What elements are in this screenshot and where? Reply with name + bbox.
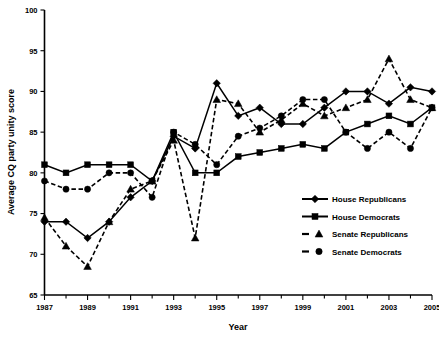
data-point-marker (429, 105, 435, 111)
x-tick-label: 2001 (338, 303, 355, 312)
chart-figure: 65707580859095100 1987198919911993199519… (0, 0, 439, 338)
data-point-marker (106, 170, 112, 176)
x-tick-label: 1991 (122, 303, 139, 312)
legend-label: House Democrats (332, 213, 401, 222)
data-point-marker (128, 162, 134, 168)
data-point-marker (312, 214, 318, 220)
x-tick-label: 1999 (294, 303, 311, 312)
data-point-marker (257, 150, 263, 156)
x-tick-label: 1987 (36, 303, 53, 312)
x-tick-label: 1995 (208, 303, 225, 312)
data-point-marker (128, 170, 134, 176)
data-point-marker (278, 113, 284, 119)
data-point-marker (84, 186, 90, 192)
data-point-marker (321, 96, 327, 102)
data-point-marker (106, 162, 112, 168)
data-point-marker (63, 170, 69, 176)
y-tick-label: 85 (29, 128, 37, 137)
data-point-marker (386, 129, 392, 135)
legend-label: Senate Republicans (332, 230, 409, 239)
data-point-marker (257, 125, 263, 131)
data-point-marker (214, 162, 220, 168)
data-point-marker (321, 146, 327, 152)
y-axis-title: Average CQ party unity score (6, 89, 16, 215)
data-point-marker (235, 154, 241, 160)
legend-label: House Republicans (332, 195, 407, 204)
data-point-marker (407, 145, 413, 151)
x-tick-label: 1993 (165, 303, 182, 312)
data-point-marker (235, 133, 241, 139)
data-point-marker (278, 146, 284, 152)
y-tick-label: 90 (29, 87, 37, 96)
data-point-marker (85, 162, 91, 168)
data-point-marker (63, 186, 69, 192)
chart-background (0, 0, 439, 338)
data-point-marker (365, 121, 371, 127)
x-tick-label: 2003 (381, 303, 398, 312)
x-tick-label: 2005 (424, 303, 439, 312)
data-point-marker (386, 113, 392, 119)
data-point-marker (192, 170, 198, 176)
y-tick-label: 100 (25, 6, 38, 15)
data-point-marker (42, 162, 48, 168)
y-tick-label: 95 (29, 47, 37, 56)
data-point-marker (300, 141, 306, 147)
data-point-marker (364, 145, 370, 151)
data-point-marker (214, 170, 220, 176)
data-point-marker (41, 178, 47, 184)
x-tick-label: 1997 (251, 303, 268, 312)
data-point-marker (408, 121, 414, 127)
data-point-marker (149, 194, 155, 200)
x-axis-title: Year (228, 322, 248, 332)
y-tick-label: 80 (29, 169, 37, 178)
data-point-marker (316, 248, 322, 254)
data-point-marker (343, 129, 349, 135)
x-tick-label: 1989 (79, 303, 96, 312)
legend-label: Senate Democrats (332, 248, 402, 257)
y-tick-label: 65 (29, 291, 37, 300)
y-tick-label: 75 (29, 209, 37, 218)
y-tick-label: 70 (29, 250, 37, 259)
party-unity-line-chart: 65707580859095100 1987198919911993199519… (0, 0, 439, 338)
data-point-marker (300, 96, 306, 102)
